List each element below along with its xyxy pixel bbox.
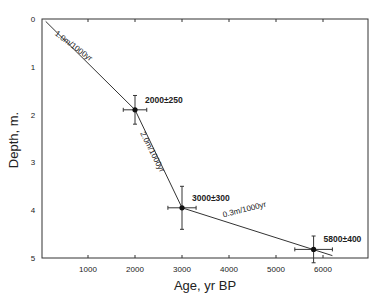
- rate-label: 2.0m/1000yr: [138, 130, 166, 174]
- dated-points: 2000±2503000±3005800±400: [123, 95, 361, 263]
- date-label: 2000±250: [145, 95, 183, 105]
- x-axis-label: Age, yr BP: [174, 278, 236, 293]
- x-tick-label: 5000: [267, 265, 285, 274]
- x-tick-label: 2000: [126, 265, 144, 274]
- x-tick-label: 4000: [220, 265, 238, 274]
- x-tick-label: 6000: [314, 265, 332, 274]
- y-tick-label: 3: [31, 158, 36, 167]
- age-depth-chart: 100020003000400050006000 012345 1.0m/100…: [0, 0, 387, 300]
- y-tick-label: 0: [31, 15, 36, 24]
- y-tick-label: 4: [31, 206, 36, 215]
- rate-line: [182, 208, 332, 256]
- x-axis-ticks: 100020003000400050006000: [79, 19, 332, 274]
- date-label: 5800±400: [324, 234, 362, 244]
- data-point: [179, 205, 184, 210]
- data-point: [132, 107, 137, 112]
- y-axis-label: Depth, m.: [6, 112, 21, 168]
- y-tick-label: 5: [31, 254, 36, 263]
- date-label: 3000±300: [192, 193, 230, 203]
- x-tick-label: 1000: [79, 265, 97, 274]
- sedimentation-rate-lines: 1.0m/1000yr2.0m/1000yr0.3m/1000yr: [46, 21, 333, 255]
- data-point: [311, 247, 316, 252]
- y-tick-label: 1: [31, 63, 36, 72]
- x-tick-label: 3000: [173, 265, 191, 274]
- y-axis-ticks: 012345: [31, 15, 36, 263]
- y-tick-label: 2: [31, 111, 36, 120]
- rate-label: 1.0m/1000yr: [53, 29, 94, 63]
